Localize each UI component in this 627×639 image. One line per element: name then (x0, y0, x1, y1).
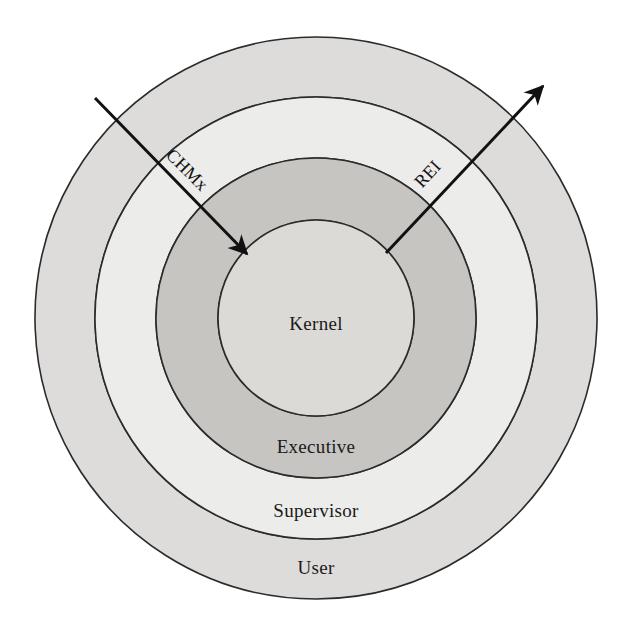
privilege-ring-diagram: User Supervisor Executive Kernel CHMx RE… (0, 0, 627, 639)
ring-label-kernel: Kernel (289, 313, 343, 334)
ring-kernel: Kernel (218, 220, 414, 416)
ring-label-user: User (297, 557, 334, 578)
rings-canvas: User Supervisor Executive Kernel CHMx RE… (0, 0, 627, 639)
ring-label-supervisor: Supervisor (273, 500, 359, 521)
ring-label-executive: Executive (277, 436, 356, 457)
